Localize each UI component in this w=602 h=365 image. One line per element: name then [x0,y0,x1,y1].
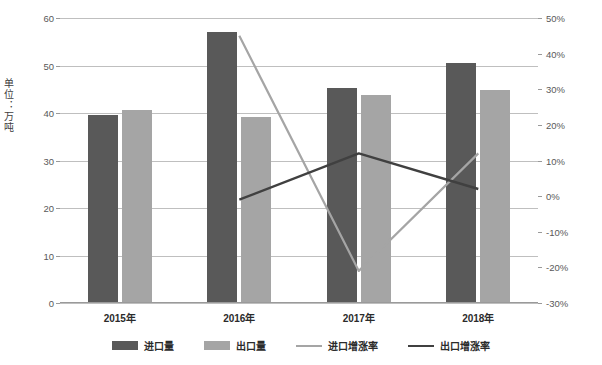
y-axis-tick-mark-right [538,196,542,197]
line-series-export-growth [239,153,478,199]
legend-label: 出口增涨率 [440,338,490,353]
chart-legend: 进口量出口量进口增涨率出口增涨率 [0,338,602,353]
legend-item[interactable]: 出口量 [204,338,266,353]
y-axis-tick-label-right: -30% [546,298,588,309]
y-axis-tick-label-right: 10% [546,155,588,166]
x-axis-label-2017年: 2017年 [343,310,375,325]
y-axis-tick-mark-right [538,54,542,55]
y-axis-tick-mark-right [538,89,542,90]
legend-item[interactable]: 进口增涨率 [296,338,378,353]
legend-item[interactable]: 出口增涨率 [408,338,490,353]
gridline [60,303,538,304]
x-axis-line [60,302,538,303]
legend-swatch-bar-icon [112,341,138,350]
legend-swatch-line-icon [408,345,434,347]
y-axis-tick-label-right: 30% [546,84,588,95]
y-axis-tick-mark-right [538,232,542,233]
legend-label: 进口量 [144,338,174,353]
y-axis-tick-mark-right [538,303,542,304]
legend-label: 进口增涨率 [328,338,378,353]
y-axis-tick-mark-right [538,161,542,162]
y-axis-tick-label-right: 40% [546,48,588,59]
line-series-group [60,18,538,303]
legend-label: 出口量 [236,338,266,353]
y-axis-tick-mark-right [538,125,542,126]
y-axis-tick-label-right: -20% [546,262,588,273]
y-axis-tick-label-right: 0% [546,191,588,202]
y-axis-tick-label-right: 20% [546,119,588,130]
legend-swatch-line-icon [296,345,322,347]
y-axis-tick-label-right: -10% [546,226,588,237]
x-axis-label-2018年: 2018年 [462,310,494,325]
x-axis-label-2016年: 2016年 [223,310,255,325]
legend-item[interactable]: 进口量 [112,338,174,353]
x-axis-label-2015年: 2015年 [104,310,136,325]
plot-area [60,18,538,303]
legend-swatch-bar-icon [204,341,230,350]
y-axis-tick-label-right: 50% [546,13,588,24]
y-axis-tick-mark-right [538,18,542,19]
y-axis-tick-mark-right [538,267,542,268]
chart-container: 单位：万吨 0102030405060 -30%-20%-10%0%10%20%… [0,0,602,365]
